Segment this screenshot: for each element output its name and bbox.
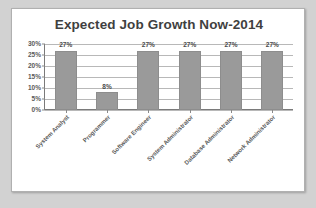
bar [96,92,118,110]
bar-group: 27% [210,44,251,110]
x-axis-tick-label: System Analyst [34,114,70,150]
bar-value-label: 27% [224,42,237,49]
bar-value-label: 27% [183,42,196,49]
bar-value-label: 8% [102,84,111,91]
y-axis-tick-label: 0% [32,107,41,114]
y-axis-tick-label: 30% [28,41,41,48]
bar-group: 27% [45,44,86,110]
y-axis-tick-label: 10% [28,85,41,92]
bar-group: 27% [169,44,210,110]
chart-panel: Expected Job Growth Now-2014 0%5%10%15%2… [11,8,305,192]
bar-group: 27% [252,44,293,110]
x-axis-tick-label: Programmer [82,114,111,143]
bar [55,51,77,110]
bar-group: 8% [86,44,127,110]
x-axis-labels: System AnalystProgrammerSoftware Enginee… [45,110,293,180]
bar [179,51,201,110]
bar-value-label: 27% [59,42,72,49]
x-axis-label-slot: System Analyst [45,110,86,180]
plot-area: 0%5%10%15%20%25%30% 27%8%27%27%27%27% [45,44,293,110]
bar [261,51,283,110]
y-axis-tick-label: 25% [28,52,41,59]
y-axis-tick-label: 5% [32,96,41,103]
y-axis-tick-label: 20% [28,63,41,70]
bar-value-label: 27% [266,42,279,49]
bar-group: 27% [128,44,169,110]
chart-outer-frame: Expected Job Growth Now-2014 0%5%10%15%2… [0,0,316,208]
y-axis-tick-label: 15% [28,74,41,81]
bar [220,51,242,110]
x-axis-label-slot: Network Administrator [252,110,293,180]
bar-value-label: 27% [142,42,155,49]
chart-title: Expected Job Growth Now-2014 [12,17,306,32]
bar [137,51,159,110]
